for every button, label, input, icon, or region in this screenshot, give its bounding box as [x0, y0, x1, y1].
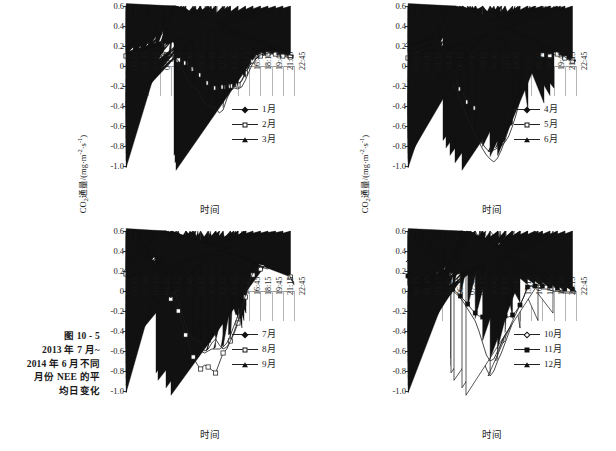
x-tick-label: 13:45	[512, 52, 521, 70]
y-tick-label: -0.6	[393, 121, 406, 131]
legend: 10月11月12月	[514, 327, 562, 372]
legend-marker-triangle-icon	[242, 362, 248, 367]
x-tick-label: 18:15	[546, 277, 555, 295]
legend-line-swatch	[514, 349, 540, 350]
caption-line-3: 月份 NEE 的平	[2, 371, 100, 385]
x-tick-label: 06:15	[456, 52, 465, 70]
y-tick-label: -0.6	[393, 346, 406, 356]
x-tick-label: 18:15	[546, 52, 555, 70]
chart-panel-bottom-left: CO2通量/(mg·m-2·s-1)0.60.40.20-0.2-0.4-0.6…	[100, 231, 308, 451]
legend-item[interactable]: 7月	[232, 327, 276, 342]
caption-line-2: 2014 年 6 月不同	[2, 358, 100, 372]
y-axis-ticks: 0.60.40.20-0.2-0.4-0.6-0.8-1.0	[380, 6, 406, 166]
legend-marker-triangle-icon	[242, 137, 248, 142]
y-axis-label: CO2通量/(mg·m-2·s-1)	[76, 99, 90, 249]
y-tick-label: -0.4	[111, 101, 124, 111]
y-tick-label: -1.0	[111, 386, 124, 396]
legend-item[interactable]: 2月	[232, 117, 276, 132]
legend-label: 3月	[262, 135, 276, 144]
legend-line-swatch	[232, 124, 258, 125]
legend-line-swatch	[232, 334, 258, 335]
y-tick-label: -0.4	[111, 326, 124, 336]
x-tick-label: 04:45	[163, 52, 172, 70]
x-tick-label: 18:15	[264, 277, 273, 295]
y-tick-label: -0.6	[111, 346, 124, 356]
x-tick-label: 21:15	[568, 52, 577, 70]
legend-item[interactable]: 6月	[514, 132, 558, 147]
x-tick-label: 01:45	[141, 277, 150, 295]
legend-label: 8月	[262, 345, 276, 354]
x-tick-label: 03:15	[434, 277, 443, 295]
x-tick-label: 13:45	[512, 277, 521, 295]
y-tick-label: -0.4	[393, 326, 406, 336]
x-tick-label: 04:45	[445, 277, 454, 295]
figure-caption: 图 10 - 5 2013 年 7 月~ 2014 年 6 月不同 月份 NEE…	[2, 330, 100, 399]
legend-item[interactable]: 9月	[232, 357, 276, 372]
legend-label: 9月	[262, 360, 276, 369]
x-tick-label: 21:15	[286, 277, 295, 295]
x-tick-label: 16:45	[535, 277, 544, 295]
legend-label: 4月	[544, 105, 558, 114]
legend-marker-diamond-icon	[241, 331, 248, 338]
legend-line-swatch	[514, 334, 540, 335]
legend-item[interactable]: 10月	[514, 327, 562, 342]
caption-line-4: 均日变化	[2, 385, 100, 399]
legend-item[interactable]: 1月	[232, 102, 276, 117]
legend-item[interactable]: 12月	[514, 357, 562, 372]
chart-panel-bottom-right: CO2通量/(mg·m-2·s-1)0.60.40.20-0.2-0.4-0.6…	[382, 231, 590, 451]
x-tick-label: 12:15	[219, 277, 228, 295]
x-tick-label: 12:15	[219, 52, 228, 70]
y-axis-label: CO2通量/(mg·m-2·s-1)	[358, 0, 372, 24]
x-axis-label: 时间	[126, 427, 294, 441]
x-tick-label: 00:15	[412, 52, 421, 70]
legend-item[interactable]: 3月	[232, 132, 276, 147]
legend-label: 12月	[544, 360, 562, 369]
x-tick-label: 07:45	[468, 52, 477, 70]
x-axis-label: 时间	[408, 202, 576, 216]
legend-marker-square-icon	[243, 122, 248, 127]
x-tick-label: 13:45	[230, 277, 239, 295]
legend-marker-square-fill-icon	[525, 347, 530, 352]
y-axis-ticks: 0.60.40.20-0.2-0.4-0.6-0.8-1.0	[98, 6, 124, 166]
x-tick-label: 01:45	[423, 277, 432, 295]
x-axis-label: 时间	[408, 427, 576, 441]
x-grid-tick	[576, 66, 577, 96]
x-tick-label: 13:45	[230, 52, 239, 70]
x-tick-label: 07:45	[468, 277, 477, 295]
x-tick-label: 22:45	[580, 52, 589, 70]
legend-line-swatch	[514, 109, 540, 110]
legend-item[interactable]: 4月	[514, 102, 558, 117]
legend-line-swatch	[514, 364, 540, 365]
legend-label: 6月	[544, 135, 558, 144]
legend-marker-triangle-icon	[524, 137, 530, 142]
legend-item[interactable]: 8月	[232, 342, 276, 357]
legend-item[interactable]: 11月	[514, 342, 562, 357]
x-tick-label: 12:15	[501, 52, 510, 70]
x-tick-label: 16:45	[253, 52, 262, 70]
x-tick-label: 09:15	[479, 277, 488, 295]
x-tick-label: 01:45	[423, 52, 432, 70]
legend-item[interactable]: 5月	[514, 117, 558, 132]
legend: 1月2月3月	[232, 102, 276, 147]
legend-marker-square-icon	[243, 347, 248, 352]
x-tick-label: 10:45	[490, 52, 499, 70]
y-tick-label: -0.2	[393, 306, 406, 316]
x-tick-label: 21:15	[286, 52, 295, 70]
x-axis-label: 时间	[126, 202, 294, 216]
x-grid-tick	[294, 66, 295, 96]
x-tick-label: 00:15	[412, 277, 421, 295]
x-tick-label: 10:45	[490, 277, 499, 295]
y-tick-label: -0.8	[111, 141, 124, 151]
y-tick-label: -0.8	[393, 366, 406, 376]
y-tick-label: -0.2	[111, 306, 124, 316]
y-axis-label: CO2通量/(mg·m-2·s-1)	[358, 99, 372, 249]
x-tick-label: 03:15	[152, 52, 161, 70]
x-tick-label: 19:45	[275, 277, 284, 295]
x-tick-label: 09:15	[197, 277, 206, 295]
y-axis-ticks: 0.60.40.20-0.2-0.4-0.6-0.8-1.0	[380, 231, 406, 391]
x-tick-label: 10:45	[208, 52, 217, 70]
x-tick-label: 06:15	[174, 277, 183, 295]
x-tick-label: 04:45	[445, 52, 454, 70]
y-axis-label: CO2通量/(mg·m-2·s-1)	[76, 0, 90, 24]
x-tick-label: 03:15	[152, 277, 161, 295]
